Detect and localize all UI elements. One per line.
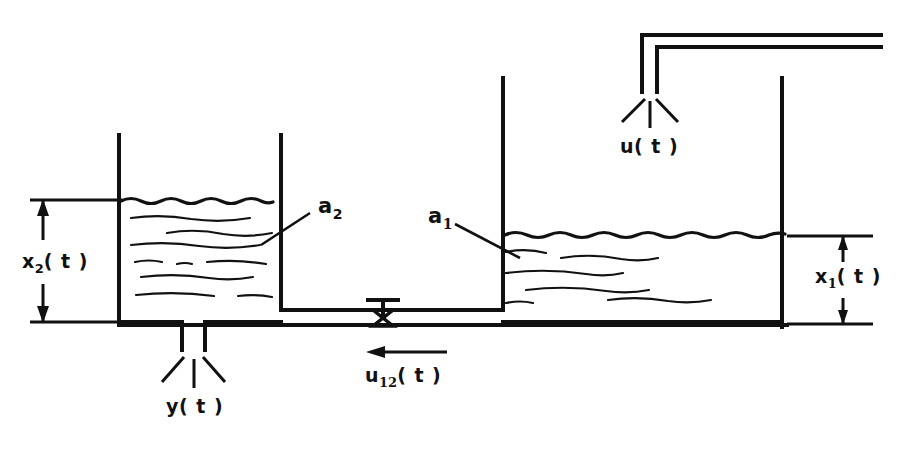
label-area-tank2: a2 xyxy=(318,196,342,217)
inlet-spray-left xyxy=(622,99,645,122)
inlet-spray-lines xyxy=(622,99,678,128)
tank-right-ripple-2 xyxy=(561,256,658,261)
two-tank-system-diagram: x2( t ) x1( t ) a2 a1 u( t ) u12( t ) y(… xyxy=(0,0,903,453)
inlet-spray-right xyxy=(656,99,678,122)
label-outflow-base: y xyxy=(166,395,179,417)
tank-left-ripple-4c xyxy=(207,261,266,264)
tank-right-ripple-5 xyxy=(506,302,533,304)
interflow-arrowhead xyxy=(366,346,385,358)
label-level-tank1: x1( t ) xyxy=(815,267,882,286)
tank-left-ripple-6b xyxy=(238,295,272,297)
tank-left-ripple-6a xyxy=(136,293,214,296)
tank-left-ripple-4b xyxy=(177,263,192,264)
label-area-tank1-base: a xyxy=(428,204,443,228)
tank-right-ripple-3 xyxy=(506,271,623,276)
tank-left-ripple-3 xyxy=(131,243,260,248)
label-level-tank1-base: x xyxy=(815,265,828,287)
label-interflow-suffix: ( t ) xyxy=(397,364,442,386)
tank-left-outline xyxy=(119,135,281,350)
label-level-tank1-subscript: 1 xyxy=(828,276,837,291)
label-area-tank1-subscript: 1 xyxy=(443,216,453,232)
inlet-pipe xyxy=(642,35,881,92)
label-outflow-suffix: ( t ) xyxy=(179,395,224,417)
dimension-x2-arrowhead-top xyxy=(37,199,49,216)
tank-left-ripple-2 xyxy=(167,231,272,236)
label-level-tank2-subscript: 2 xyxy=(35,261,44,276)
label-level-tank1-suffix: ( t ) xyxy=(837,265,882,287)
dimension-x2-arrowhead-bottom xyxy=(37,306,49,323)
tank-left-ripple-4a xyxy=(135,261,162,263)
tank-right-ripple-4 xyxy=(526,288,649,293)
tank-right-liquid xyxy=(505,233,785,304)
inlet-pipe-outer-wall xyxy=(642,35,881,92)
tank-left-surface xyxy=(121,199,273,204)
tank-left-liquid xyxy=(121,199,273,298)
leader-lines xyxy=(261,213,520,258)
interflow-arrow xyxy=(366,346,447,358)
tank-right-outline xyxy=(503,78,782,327)
label-outflow: y( t ) xyxy=(166,397,224,416)
label-interflow-subscript: 12 xyxy=(379,375,397,390)
label-area-tank2-base: a xyxy=(318,194,333,218)
outlet-spray-lines xyxy=(162,357,225,388)
label-inflow-base: u xyxy=(620,135,634,157)
label-inflow-suffix: ( t ) xyxy=(634,135,679,157)
label-interflow-base: u xyxy=(365,364,379,386)
outlet-spray-right xyxy=(203,357,225,382)
leader-line-area-tank1 xyxy=(455,224,520,258)
label-inflow: u( t ) xyxy=(620,137,679,156)
tank-left-ripple-5 xyxy=(141,275,253,279)
label-level-tank2: x2( t ) xyxy=(22,252,89,271)
tank-right-surface xyxy=(505,233,785,238)
label-level-tank2-suffix: ( t ) xyxy=(44,250,89,272)
label-interflow: u12( t ) xyxy=(365,366,442,385)
inlet-pipe-inner-wall xyxy=(657,47,881,92)
label-level-tank2-base: x xyxy=(22,250,35,272)
label-area-tank2-subscript: 2 xyxy=(333,206,343,222)
tank-right-ripple-6 xyxy=(608,298,711,302)
tank-left-ripple-1 xyxy=(131,216,250,221)
outlet-spray-left xyxy=(162,357,184,382)
leader-line-area-tank2 xyxy=(261,213,310,245)
valve-assembly[interactable] xyxy=(366,300,400,326)
label-area-tank1: a1 xyxy=(428,206,452,227)
